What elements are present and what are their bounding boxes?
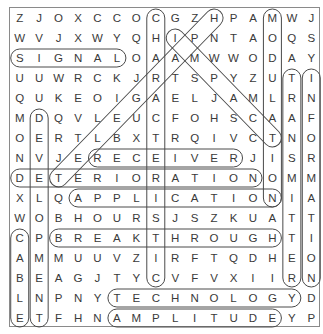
grid-cell[interactable]: D <box>302 288 321 308</box>
grid-cell[interactable]: T <box>282 208 301 228</box>
grid-cell[interactable]: Y <box>107 28 126 48</box>
grid-cell[interactable]: Z <box>243 68 262 88</box>
grid-cell[interactable]: T <box>107 288 126 308</box>
grid-cell[interactable]: Z <box>10 8 29 28</box>
grid-cell[interactable]: T <box>185 168 204 188</box>
grid-cell[interactable]: V <box>29 148 48 168</box>
grid-cell[interactable]: E <box>29 168 48 188</box>
grid-cell[interactable]: A <box>302 188 321 208</box>
grid-cell[interactable]: O <box>127 48 146 68</box>
grid-cell[interactable]: D <box>29 108 48 128</box>
grid-cell[interactable]: K <box>127 228 146 248</box>
grid-cell[interactable]: U <box>224 308 243 328</box>
grid-cell[interactable]: A <box>68 188 87 208</box>
grid-cell[interactable]: E <box>68 148 87 168</box>
grid-cell[interactable]: E <box>263 308 282 328</box>
grid-cell[interactable]: P <box>302 308 321 328</box>
grid-cell[interactable]: C <box>243 108 262 128</box>
grid-cell[interactable]: B <box>10 268 29 288</box>
grid-cell[interactable]: P <box>146 308 165 328</box>
grid-cell[interactable]: Q <box>224 248 243 268</box>
grid-cell[interactable]: E <box>166 88 185 108</box>
grid-cell[interactable]: A <box>88 48 107 68</box>
grid-cell[interactable]: J <box>204 88 223 108</box>
grid-cell[interactable]: O <box>204 288 223 308</box>
grid-cell[interactable]: J <box>49 148 68 168</box>
grid-cell[interactable]: A <box>166 168 185 188</box>
grid-cell[interactable]: A <box>166 48 185 68</box>
grid-cell[interactable]: B <box>49 228 68 248</box>
grid-cell[interactable]: W <box>282 8 301 28</box>
grid-cell[interactable]: T <box>49 168 68 188</box>
grid-cell[interactable]: D <box>10 168 29 188</box>
grid-cell[interactable]: T <box>146 128 165 148</box>
grid-cell[interactable]: O <box>127 8 146 28</box>
grid-cell[interactable]: D <box>263 48 282 68</box>
grid-cell[interactable]: M <box>185 48 204 68</box>
grid-cell[interactable]: D <box>243 248 262 268</box>
grid-cell[interactable]: B <box>49 208 68 228</box>
grid-cell[interactable]: X <box>224 268 243 288</box>
grid-cell[interactable]: I <box>263 148 282 168</box>
grid-cell[interactable]: A <box>146 88 165 108</box>
grid-cell[interactable]: S <box>10 48 29 68</box>
grid-cell[interactable]: K <box>224 208 243 228</box>
grid-cell[interactable]: P <box>107 188 126 208</box>
grid-cell[interactable]: S <box>146 208 165 228</box>
grid-cell[interactable]: P <box>204 68 223 88</box>
grid-cell[interactable]: E <box>29 268 48 288</box>
grid-cell[interactable]: W <box>204 48 223 68</box>
grid-cell[interactable]: Q <box>49 108 68 128</box>
grid-cell[interactable]: O <box>263 168 282 188</box>
grid-cell[interactable]: H <box>68 208 87 228</box>
grid-cell[interactable]: L <box>107 48 126 68</box>
grid-cell[interactable]: I <box>166 148 185 168</box>
grid-cell[interactable]: M <box>49 248 68 268</box>
grid-cell[interactable]: A <box>282 108 301 128</box>
grid-cell[interactable]: T <box>107 268 126 288</box>
grid-cell[interactable]: K <box>107 68 126 88</box>
grid-cell[interactable]: R <box>282 268 301 288</box>
grid-cell[interactable]: O <box>10 128 29 148</box>
grid-cell[interactable]: O <box>302 128 321 148</box>
grid-cell[interactable]: R <box>146 68 165 88</box>
grid-cell[interactable]: C <box>146 268 165 288</box>
grid-cell[interactable]: L <box>127 188 146 208</box>
grid-cell[interactable]: P <box>185 28 204 48</box>
grid-cell[interactable]: O <box>88 208 107 228</box>
grid-cell[interactable]: A <box>282 48 301 68</box>
grid-cell[interactable]: R <box>49 128 68 148</box>
grid-cell[interactable]: N <box>68 288 87 308</box>
grid-cell[interactable]: T <box>204 308 223 328</box>
grid-cell[interactable]: Y <box>282 288 301 308</box>
grid-cell[interactable]: I <box>166 28 185 48</box>
grid-cell[interactable]: N <box>29 288 48 308</box>
grid-cell[interactable]: Q <box>282 28 301 48</box>
grid-cell[interactable]: E <box>29 128 48 148</box>
grid-cell[interactable]: N <box>204 28 223 48</box>
grid-cell[interactable]: V <box>204 268 223 288</box>
grid-cell[interactable]: C <box>88 68 107 88</box>
grid-cell[interactable]: T <box>68 128 87 148</box>
grid-cell[interactable]: A <box>185 188 204 208</box>
grid-cell[interactable]: I <box>204 128 223 148</box>
grid-cell[interactable]: U <box>107 208 126 228</box>
grid-cell[interactable]: O <box>224 168 243 188</box>
grid-cell[interactable]: Z <box>185 8 204 28</box>
grid-cell[interactable]: H <box>166 228 185 248</box>
grid-cell[interactable]: Y <box>302 48 321 68</box>
grid-cell[interactable]: F <box>185 248 204 268</box>
grid-cell[interactable]: U <box>243 208 262 228</box>
grid-cell[interactable]: U <box>263 68 282 88</box>
grid-cell[interactable]: Q <box>127 28 146 48</box>
grid-cell[interactable]: C <box>166 188 185 208</box>
grid-cell[interactable]: R <box>166 248 185 268</box>
grid-cell[interactable]: M <box>243 88 262 108</box>
grid-cell[interactable]: X <box>10 188 29 208</box>
grid-cell[interactable]: L <box>224 288 243 308</box>
grid-cell[interactable]: G <box>166 8 185 28</box>
grid-cell[interactable]: D <box>243 308 262 328</box>
grid-cell[interactable]: A <box>107 308 126 328</box>
grid-cell[interactable]: L <box>263 88 282 108</box>
grid-cell[interactable]: I <box>146 188 165 208</box>
